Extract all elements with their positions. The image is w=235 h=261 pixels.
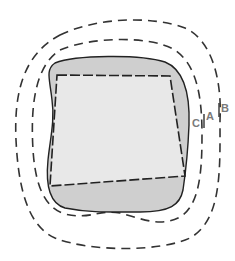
label-a: A	[206, 110, 214, 122]
label-b: B	[221, 102, 229, 114]
inner-quadrilateral	[50, 75, 185, 186]
label-c: C	[192, 117, 200, 129]
contour-diagram: C A B	[0, 0, 235, 261]
